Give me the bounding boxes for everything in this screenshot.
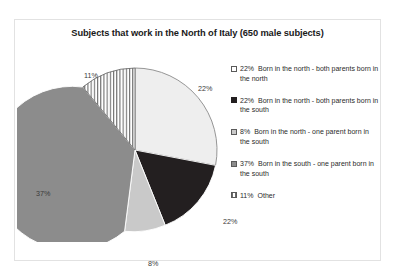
pie-slice-north-both-parents-north[interactable]	[135, 68, 217, 165]
legend-label: Born in the south - one parent born in t…	[240, 160, 374, 177]
legend-item-north-one-parent-south[interactable]: 8%Born in the north - one parent born in…	[231, 127, 379, 146]
slice-label-other: 11%	[84, 71, 98, 80]
legend-swatch-black-square-icon	[231, 97, 237, 103]
legend-percent: 8%	[240, 128, 250, 135]
legend-percent: 11%	[240, 192, 254, 199]
slice-label-north-both-south: 22%	[223, 217, 237, 226]
legend-swatch-light-gray-square-icon	[231, 129, 237, 135]
legend-percent: 22%	[240, 97, 254, 104]
legend-swatch-hatched-square-icon	[231, 192, 237, 198]
legend-percent: 22%	[240, 65, 254, 72]
legend-label: Born in the north - one parent born in t…	[240, 128, 369, 145]
legend-swatch-white-square-icon	[231, 66, 237, 72]
pie-chart-plot-area: 22% 22% 8% 37% 11% 22%Born in the north …	[15, 20, 380, 260]
legend-item-south-one-parent-south[interactable]: 37%Born in the south - one parent born i…	[231, 159, 379, 178]
pie-chart-graphic	[17, 42, 233, 242]
legend-item-north-both-south[interactable]: 22%Born in the north - both parents born…	[231, 96, 379, 115]
legend-percent: 37%	[240, 160, 254, 167]
legend-item-other[interactable]: 11%Other	[231, 191, 379, 201]
slice-label-north-both-north: 22%	[198, 84, 212, 93]
legend-label: Other	[258, 192, 276, 199]
slice-label-south-one-parent-south: 37%	[36, 189, 50, 198]
legend-swatch-mid-gray-square-icon	[231, 161, 237, 167]
chart-frame: Subjects that work in the North of Italy…	[14, 19, 381, 261]
slice-label-north-one-parent-south: 8%	[148, 259, 158, 268]
legend-item-north-both-north[interactable]: 22%Born in the north - both parents born…	[231, 64, 379, 83]
chart-legend: 22%Born in the north - both parents born…	[231, 64, 379, 213]
legend-label: Born in the north - both parents born in…	[240, 65, 378, 82]
legend-label: Born in the north - both parents born in…	[240, 97, 378, 114]
